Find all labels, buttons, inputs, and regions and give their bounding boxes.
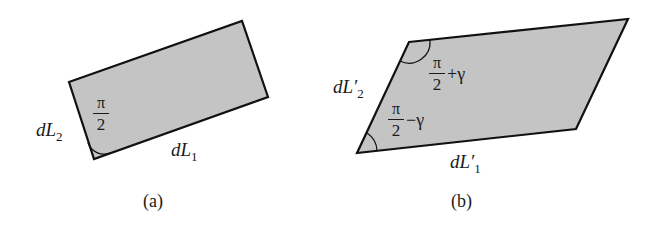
- acute-angle-label: π 2 −γ: [388, 101, 424, 139]
- fraction-bar: [388, 119, 404, 120]
- caption-b: (b): [451, 192, 472, 210]
- fraction-bar: [93, 113, 109, 114]
- side-label-dL2: dL2: [36, 120, 63, 139]
- angle-numerator: π: [96, 95, 106, 111]
- obtuse-angle-label: π 2 +γ: [429, 55, 465, 93]
- shear-strain-diagram: π 2 dL2 dL1 (a) π 2 +γ π 2 −γ dL′2 dL′1 …: [0, 0, 657, 228]
- undeformed-rectangle: [69, 21, 268, 159]
- side-label-dL1: dL1: [171, 140, 198, 159]
- right-angle-label: π 2: [93, 95, 109, 133]
- angle-denominator: 2: [97, 116, 106, 133]
- fraction-bar: [429, 73, 445, 74]
- side-label-dL1-prime: dL′1: [450, 152, 481, 171]
- side-label-dL2-prime: dL′2: [333, 77, 364, 96]
- caption-a: (a): [143, 192, 163, 210]
